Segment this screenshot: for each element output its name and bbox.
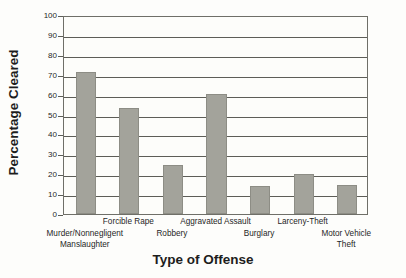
bar xyxy=(250,186,270,214)
gridline xyxy=(64,77,367,78)
gridline xyxy=(64,37,367,38)
y-axis-tick-label: 50 xyxy=(35,112,57,120)
bar xyxy=(163,165,183,214)
x-axis-category-label: Motor VehicleTheft xyxy=(321,229,371,250)
x-axis-category-label-line: Forcible Rape xyxy=(103,217,154,228)
x-axis-title-text: Type of Offense xyxy=(152,252,253,267)
x-axis-category-label: Larceny-Theft xyxy=(277,217,328,228)
x-axis-category-label: Aggravated Assault xyxy=(180,217,251,228)
plot-area-wrapper xyxy=(63,16,368,215)
y-axis-tick-label: 90 xyxy=(35,32,57,40)
bar xyxy=(76,72,96,214)
y-axis-title-text: Percentage Cleared xyxy=(6,49,21,175)
y-axis-tick-label: 80 xyxy=(35,52,57,60)
x-axis-category-label-line: Larceny-Theft xyxy=(277,217,328,228)
x-axis-category-label-line: Theft xyxy=(321,240,371,251)
y-axis-tick-label: 100 xyxy=(35,12,57,20)
x-axis-title: Type of Offense xyxy=(0,252,406,267)
x-axis-category-label-line: Aggravated Assault xyxy=(180,217,251,228)
bar xyxy=(119,108,139,214)
plot-area xyxy=(63,16,368,215)
gridline xyxy=(64,57,367,58)
y-axis-tick-label: 10 xyxy=(35,191,57,199)
y-axis-tick-label: 60 xyxy=(35,92,57,100)
x-axis-category-label: Burglary xyxy=(244,229,275,240)
bar xyxy=(337,185,357,214)
bar xyxy=(206,94,226,214)
bar-chart-figure: Percentage Cleared 010203040506070809010… xyxy=(0,0,406,278)
y-axis-tick-label: 70 xyxy=(35,72,57,80)
x-axis-category-label-line: Burglary xyxy=(244,229,275,240)
x-axis-category-label: Forcible Rape xyxy=(103,217,154,228)
x-axis-category-label-line: Motor Vehicle xyxy=(321,229,371,240)
x-axis-category-label: Robbery xyxy=(156,229,187,240)
y-axis-tick-label: 30 xyxy=(35,151,57,159)
y-axis-title: Percentage Cleared xyxy=(0,0,26,224)
y-axis-tick-label: 20 xyxy=(35,171,57,179)
bar xyxy=(294,174,314,214)
x-axis-category-label-line: Robbery xyxy=(156,229,187,240)
x-axis-category-label-line: Manslaughter xyxy=(47,240,123,251)
y-axis-tick-labels: 0102030405060708090100 xyxy=(33,16,57,215)
x-axis-category-label: Murder/NonnegligentManslaughter xyxy=(47,229,123,250)
x-axis-category-label-line: Murder/Nonnegligent xyxy=(47,229,123,240)
y-axis-tick-label: 40 xyxy=(35,131,57,139)
